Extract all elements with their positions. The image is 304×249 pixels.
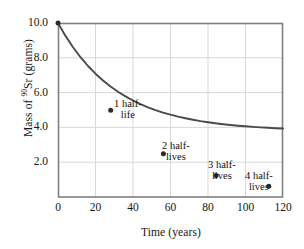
annotation-4-line2: lives [245, 182, 273, 193]
decay-curve-figure: Mass of 90Sr (grams) Time (years) 10.0 8… [0, 0, 304, 249]
x-axis-title: Time (years) [58, 226, 284, 238]
y-tick-label-6: 6.0 [14, 86, 48, 98]
annotation-2-line2: lives [162, 152, 190, 163]
y-tick-label-10: 10.0 [14, 16, 48, 28]
annotation-3-line2: lives [208, 171, 236, 182]
annotation-1-line2: life [114, 110, 142, 121]
x-tick-label-120: 120 [266, 201, 300, 213]
x-tick-label-40: 40 [116, 201, 150, 213]
y-tick-label-4: 4.0 [14, 120, 48, 132]
annotation-3-half-lives: 3 half- lives [208, 160, 236, 182]
x-tick-label-20: 20 [79, 201, 113, 213]
y-tick-label-2: 2.0 [14, 155, 48, 167]
data-point-1 [108, 108, 113, 113]
annotation-1-half-life: 1 half- life [114, 99, 142, 121]
data-point-0 [56, 21, 61, 26]
data-point-markers [56, 21, 272, 189]
x-tick-label-80: 80 [191, 201, 225, 213]
y-axis-title-suffix: Sr (grams) [22, 39, 34, 89]
x-tick-label-60: 60 [154, 201, 188, 213]
x-tick-label-0: 0 [41, 201, 75, 213]
x-tick-label-100: 100 [229, 201, 263, 213]
annotation-4-half-lives: 4 half- lives [245, 171, 273, 193]
annotation-2-half-lives: 2 half- lives [162, 141, 190, 163]
y-tick-label-8: 8.0 [14, 51, 48, 63]
